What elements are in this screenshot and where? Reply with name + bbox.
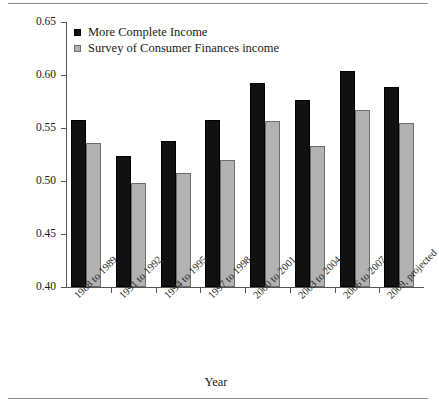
x-axis-title: Year	[0, 375, 432, 390]
x-axis-tick	[200, 288, 201, 293]
bar-more-complete-income	[250, 83, 265, 287]
x-axis-tick	[111, 288, 112, 293]
page-rule-top	[8, 3, 428, 4]
y-axis-tick	[61, 287, 66, 288]
x-axis-tick	[335, 288, 336, 293]
page-rule-bottom	[8, 398, 428, 399]
bar-more-complete-income	[161, 141, 176, 287]
bar-more-complete-income	[71, 120, 86, 287]
bar-scf-income	[399, 123, 414, 287]
y-axis-tick-label: 0.65	[22, 16, 56, 28]
y-axis-tick-label: 0.60	[22, 69, 56, 81]
bar-more-complete-income	[116, 156, 131, 287]
y-axis-tick-label: 0.50	[22, 175, 56, 187]
chart-legend: More Complete IncomeSurvey of Consumer F…	[74, 24, 279, 56]
bar-more-complete-income	[340, 71, 355, 287]
plot-area	[66, 22, 424, 287]
y-axis-tick-label: 0.40	[22, 281, 56, 293]
legend-label: More Complete Income	[88, 24, 207, 40]
legend-item: More Complete Income	[74, 24, 279, 40]
legend-item: Survey of Consumer Finances income	[74, 40, 279, 56]
bar-more-complete-income	[384, 87, 399, 287]
y-axis-tick-label: 0.55	[22, 122, 56, 134]
x-axis-tick	[379, 288, 380, 293]
legend-label: Survey of Consumer Finances income	[88, 40, 279, 56]
y-axis-tick-label: 0.45	[22, 228, 56, 240]
bar-more-complete-income	[295, 100, 310, 287]
x-axis-tick	[156, 288, 157, 293]
legend-swatch-icon	[74, 29, 81, 36]
bar-scf-income	[355, 110, 370, 287]
x-axis-tick	[290, 288, 291, 293]
bar-scf-income	[265, 121, 280, 287]
x-axis-tick	[245, 288, 246, 293]
legend-swatch-icon	[74, 45, 81, 52]
